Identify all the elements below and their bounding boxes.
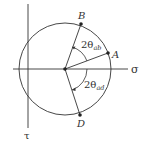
sigma-axis-label: σ [131, 63, 139, 76]
point-a [106, 51, 110, 55]
label-a: A [111, 49, 119, 60]
label-b: B [77, 10, 85, 21]
arrowhead-ad [72, 88, 76, 92]
angle-label-ad: 2θad [84, 79, 104, 92]
point-c [63, 67, 67, 71]
mohr-circle-diagram: σ τ B A D 2θab 2θad [0, 0, 147, 146]
label-d: D [76, 118, 85, 129]
radius-cd [65, 69, 80, 115]
radius-cb [65, 24, 81, 69]
point-d [78, 113, 82, 117]
angle-label-ab: 2θab [81, 39, 101, 52]
point-b [79, 22, 83, 26]
radius-ca [65, 53, 108, 69]
tau-axis-label: τ [24, 130, 30, 141]
